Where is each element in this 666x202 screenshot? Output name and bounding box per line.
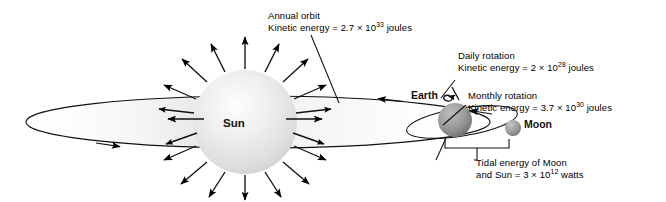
annual-orbit-prefix: Kinetic energy = 2.7 × 10 xyxy=(268,22,376,33)
moon-label: Moon xyxy=(524,118,552,130)
daily-rotation-annotation: Daily rotation Kinetic energy = 2 × 1028… xyxy=(458,50,594,73)
tidal-energy-suffix: watts xyxy=(558,169,583,180)
sun-label: Sun xyxy=(223,117,245,129)
annual-orbit-exponent: 33 xyxy=(376,20,384,27)
annual-orbit-line2: Kinetic energy = 2.7 × 1033 joules xyxy=(268,22,412,34)
monthly-rotation-prefix: Kinetic energy = 3.7 × 10 xyxy=(468,102,576,113)
leader-tidal-energy xyxy=(436,138,446,160)
earth-rotation-arrow-icon xyxy=(444,87,459,101)
tidal-energy-line2: and Sun = 3 × 1012 watts xyxy=(476,169,584,181)
orbit-direction-arrow-icon xyxy=(96,143,120,147)
astronomy-diagram: Annual orbit Kinetic energy = 2.7 × 1033… xyxy=(0,0,666,202)
daily-rotation-line2: Kinetic energy = 2 × 1028 joules xyxy=(458,62,594,74)
annual-orbit-suffix: joules xyxy=(384,22,412,33)
earth-body xyxy=(438,103,472,137)
monthly-rotation-exponent: 30 xyxy=(576,100,584,107)
tidal-energy-prefix: and Sun = 3 × 10 xyxy=(476,169,551,180)
monthly-rotation-suffix: joules xyxy=(584,102,612,113)
daily-rotation-line1: Daily rotation xyxy=(458,50,594,62)
monthly-rotation-line1: Monthly rotation xyxy=(468,90,612,102)
annual-orbit-line1: Annual orbit xyxy=(268,10,412,22)
monthly-rotation-line2: Kinetic energy = 3.7 × 1030 joules xyxy=(468,102,612,114)
tidal-energy-line1: Tidal energy of Moon xyxy=(476,157,584,169)
earth-label: Earth xyxy=(411,89,438,101)
moon-body xyxy=(505,120,521,136)
leader-annual-orbit xyxy=(311,35,339,103)
sun-body xyxy=(193,70,297,174)
annual-orbit-annotation: Annual orbit Kinetic energy = 2.7 × 1033… xyxy=(268,10,412,33)
tidal-energy-annotation: Tidal energy of Moon and Sun = 3 × 1012 … xyxy=(476,157,584,180)
monthly-rotation-annotation: Monthly rotation Kinetic energy = 3.7 × … xyxy=(468,90,612,113)
daily-rotation-suffix: joules xyxy=(566,62,594,73)
daily-rotation-prefix: Kinetic energy = 2 × 10 xyxy=(458,62,558,73)
daily-rotation-exponent: 28 xyxy=(558,60,566,67)
